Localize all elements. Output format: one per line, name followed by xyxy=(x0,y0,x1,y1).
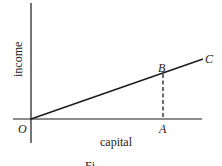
point-a-label: A xyxy=(158,122,167,136)
figure-caption: Fi xyxy=(85,159,96,166)
origin-label: O xyxy=(18,122,27,136)
point-b-label: B xyxy=(158,61,166,75)
point-c-label: C xyxy=(205,52,214,66)
line-oc xyxy=(31,59,203,119)
y-axis-label: income xyxy=(11,42,25,77)
diagram-canvas: O B C A capital income Fi xyxy=(0,0,222,166)
x-axis-label: capital xyxy=(100,135,133,149)
